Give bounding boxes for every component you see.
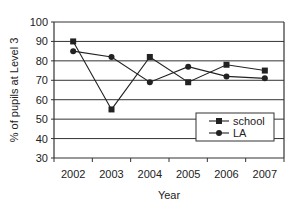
circle-marker	[109, 54, 115, 60]
x-axis-ticks: 200220032004200520062007	[54, 158, 284, 180]
y-tick-label: 50	[36, 113, 48, 125]
circle-marker	[262, 75, 268, 81]
y-axis-ticks: 30405060708090100	[30, 16, 54, 164]
x-tick-label: 2004	[138, 168, 162, 180]
y-tick-label: 40	[36, 133, 48, 145]
legend-label: school	[233, 115, 265, 127]
square-marker	[109, 106, 115, 112]
square-marker	[262, 68, 268, 74]
circle-marker	[70, 48, 76, 54]
square-marker	[224, 62, 230, 68]
square-marker	[70, 38, 76, 44]
y-axis-title: % of pupils at Level 3	[8, 38, 20, 143]
y-tick-label: 100	[30, 16, 48, 28]
y-tick-label: 30	[36, 152, 48, 164]
series-school	[70, 38, 268, 112]
square-marker	[147, 54, 153, 60]
circle-marker	[185, 64, 191, 70]
legend-square-marker	[216, 118, 222, 124]
square-marker	[185, 79, 191, 85]
x-tick-label: 2006	[214, 168, 238, 180]
y-tick-label: 70	[36, 74, 48, 86]
y-tick-label: 80	[36, 55, 48, 67]
x-tick-label: 2003	[99, 168, 123, 180]
legend-circle-marker	[216, 130, 222, 136]
line-chart: 30405060708090100 2002200320042005200620…	[0, 0, 296, 211]
y-tick-label: 90	[36, 35, 48, 47]
data-series	[70, 38, 268, 112]
circle-marker	[147, 79, 153, 85]
x-tick-label: 2002	[61, 168, 85, 180]
legend: schoolLA	[196, 113, 274, 141]
legend-label: LA	[233, 127, 247, 139]
x-tick-label: 2007	[253, 168, 277, 180]
x-tick-label: 2005	[176, 168, 200, 180]
circle-marker	[224, 73, 230, 79]
x-axis-title: Year	[158, 189, 181, 201]
y-tick-label: 60	[36, 94, 48, 106]
